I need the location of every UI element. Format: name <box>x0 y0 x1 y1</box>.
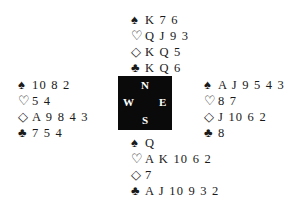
north-diamonds: ◇K Q 5 <box>131 44 189 60</box>
compass-east: E <box>159 96 166 108</box>
east-spades: ♠A J 9 5 4 3 <box>204 77 285 93</box>
north-clubs: ♣K Q 6 <box>131 60 189 76</box>
compass-north: N <box>141 79 149 91</box>
diamond-icon: ◇ <box>131 167 145 182</box>
north-spades: ♠K 7 6 <box>131 12 189 28</box>
south-hand: ♠Q ♡A K 10 6 2 ◇7 ♣A J 10 9 3 2 <box>131 135 219 199</box>
south-clubs: ♣A J 10 9 3 2 <box>131 183 219 199</box>
club-icon: ♣ <box>18 125 32 140</box>
spade-icon: ♠ <box>131 12 145 27</box>
north-hearts: ♡Q J 9 3 <box>131 28 189 44</box>
compass-south: S <box>142 114 148 126</box>
west-hand: ♠10 8 2 ♡5 4 ◇A 9 8 4 3 ♣7 5 4 <box>18 77 89 141</box>
heart-icon: ♡ <box>131 28 145 43</box>
club-icon: ♣ <box>131 183 145 198</box>
compass-west: W <box>123 96 134 108</box>
west-diamonds: ◇A 9 8 4 3 <box>18 109 89 125</box>
diamond-icon: ◇ <box>131 44 145 59</box>
south-spades: ♠Q <box>131 135 219 151</box>
east-hearts: ♡8 7 <box>204 93 285 109</box>
west-hearts: ♡5 4 <box>18 93 89 109</box>
heart-icon: ♡ <box>131 151 145 166</box>
east-hand: ♠A J 9 5 4 3 ♡8 7 ◇J 10 6 2 ♣8 <box>204 77 285 141</box>
east-diamonds: ◇J 10 6 2 <box>204 109 285 125</box>
diamond-icon: ◇ <box>18 109 32 124</box>
diamond-icon: ◇ <box>204 109 218 124</box>
heart-icon: ♡ <box>18 93 32 108</box>
compass-table: N W E S <box>118 76 172 130</box>
north-hand: ♠K 7 6 ♡Q J 9 3 ◇K Q 5 ♣K Q 6 <box>131 12 189 76</box>
spade-icon: ♠ <box>18 77 32 92</box>
spade-icon: ♠ <box>204 77 218 92</box>
heart-icon: ♡ <box>204 93 218 108</box>
spade-icon: ♠ <box>131 135 145 150</box>
south-diamonds: ◇7 <box>131 167 219 183</box>
club-icon: ♣ <box>131 60 145 75</box>
south-hearts: ♡A K 10 6 2 <box>131 151 219 167</box>
west-spades: ♠10 8 2 <box>18 77 89 93</box>
west-clubs: ♣7 5 4 <box>18 125 89 141</box>
